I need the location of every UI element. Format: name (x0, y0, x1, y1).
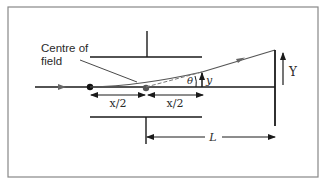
deflection-diagram: Centre of field x/2 x/2 θ y Y L (0, 0, 322, 182)
frame (8, 7, 318, 177)
distance-l-label: L (208, 131, 216, 144)
beam-extrapolation-dashed (146, 72, 202, 87)
half-length-left-label: x/2 (110, 97, 127, 110)
centre-of-field-dot (143, 85, 149, 91)
theta-label: θ (187, 75, 193, 86)
theta-angle-arc (195, 76, 196, 87)
small-y-label: y (205, 74, 213, 87)
bottom-plate (90, 117, 202, 144)
top-plate (90, 31, 202, 57)
half-length-right-label: x/2 (167, 97, 184, 110)
centre-of-field-label-line1: Centre of (41, 42, 89, 54)
centre-of-field-label-line2: field (41, 55, 62, 67)
beam-arrow-icon (236, 58, 245, 64)
big-y-label: Y (288, 65, 298, 79)
beam-path-curved (90, 72, 202, 87)
centre-of-field-pointer (80, 60, 137, 82)
beam-direction-arrow-icon (58, 84, 66, 90)
